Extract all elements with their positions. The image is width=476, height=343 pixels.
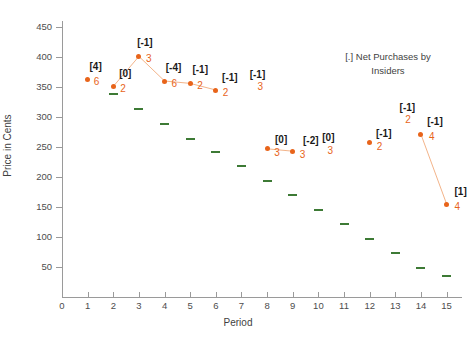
y-tick [56,117,63,118]
x-tick [88,292,89,298]
price-point-marker [367,140,372,145]
y-tick [56,177,63,178]
price-point-marker [188,81,193,86]
x-tick [216,292,217,298]
y-tick [56,87,63,88]
insider-count-label: 3 [257,81,263,92]
price-point-marker [111,84,116,89]
net-purchases-bracket-label: [0] [322,132,334,143]
price-point-marker [265,146,270,151]
x-tick-label: 13 [383,300,407,311]
reference-dash-marker [160,123,169,125]
x-tick-label: 1 [76,300,100,311]
net-purchases-bracket-label: [-1] [376,128,392,139]
price-point-marker [418,132,423,137]
price-point-marker [162,79,167,84]
insider-count-label: 3 [146,53,152,64]
connector-line [190,83,216,90]
net-purchases-bracket-label: [-2] [303,135,319,146]
x-tick [62,292,63,298]
price-point-marker [136,54,141,59]
y-tick-label: 100 [20,232,52,241]
y-tick-label: 400 [20,52,52,61]
y-tick-label: 450 [20,22,52,31]
insider-count-label: 2 [120,83,126,94]
y-tick [56,57,63,58]
insider-count-label: 2 [377,141,383,152]
insider-count-label: 2 [223,87,229,98]
reference-dash-marker [186,138,195,140]
y-tick-label: 350 [20,82,52,91]
x-tick [267,292,268,298]
x-tick [190,292,191,298]
price-point-marker [213,88,218,93]
net-purchases-bracket-label: [0] [275,134,287,145]
y-tick [56,267,63,268]
x-tick [139,292,140,298]
price-point-marker [85,77,90,82]
x-tick-label: 12 [358,300,382,311]
x-tick-label: 8 [255,300,279,311]
insider-count-label: 6 [94,76,100,87]
x-tick-label: 6 [204,300,228,311]
insider-count-label: 4 [429,131,435,142]
price-point-marker [290,149,295,154]
x-tick [421,292,422,298]
x-tick-label: 3 [127,300,151,311]
legend-line-2: Insiders [318,64,458,78]
net-purchases-bracket-label: [-4] [166,62,182,73]
x-tick-label: 4 [153,300,177,311]
x-tick [113,292,114,298]
x-tick-label: 15 [435,300,459,311]
reference-dash-marker [416,267,425,269]
reference-dash-marker [109,93,118,95]
insider-count-label: 6 [172,78,178,89]
net-purchases-bracket-label: [-1] [400,102,416,113]
insider-count-label: 3 [300,149,306,160]
y-tick [56,27,63,28]
x-tick-label: 7 [229,300,253,311]
net-purchases-bracket-label: [1] [454,186,466,197]
x-tick [293,292,294,298]
x-axis-title: Period [0,317,476,328]
reference-dash-marker [365,238,374,240]
connector-line [421,134,447,204]
net-purchases-bracket-label: [0] [119,68,131,79]
y-tick [56,237,63,238]
x-tick-label: 0 [50,300,74,311]
reference-dash-marker [134,108,143,110]
x-tick [165,292,166,298]
insider-count-label: 3 [327,145,333,156]
x-axis-line [62,297,462,298]
x-tick [318,292,319,298]
legend-line-1: [.] Net Purchases by [318,50,458,64]
y-tick-label: 50 [20,262,52,271]
y-tick-label: 200 [20,172,52,181]
x-tick-label: 2 [101,300,125,311]
x-tick-label: 14 [409,300,433,311]
reference-dash-marker [314,209,323,211]
reference-dash-marker [391,252,400,254]
x-tick-label: 5 [178,300,202,311]
x-tick [344,292,345,298]
reference-dash-marker [211,151,220,153]
connector-line [165,81,191,83]
reference-dash-marker [237,165,246,167]
y-tick-label: 250 [20,142,52,151]
insider-count-label: 2 [197,80,203,91]
y-axis-title: Price in Cents [2,86,13,206]
y-tick-label: 300 [20,112,52,121]
legend: [.] Net Purchases by Insiders [318,50,458,78]
net-purchases-bracket-label: [-1] [250,69,266,80]
net-purchases-bracket-label: [-1] [192,64,208,75]
net-purchases-bracket-label: [-1] [137,37,153,48]
x-tick [241,292,242,298]
y-tick [56,147,63,148]
insider-count-label: 3 [274,147,280,158]
x-tick [395,292,396,298]
x-tick-label: 11 [332,300,356,311]
chart-root: 50100150200250300350400450 0123456789101… [0,0,476,343]
x-tick [370,292,371,298]
insider-count-label: 4 [455,201,461,212]
x-tick [447,292,448,298]
